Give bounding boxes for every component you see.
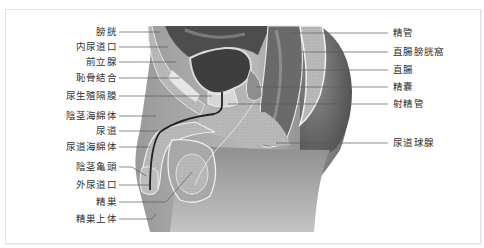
label-pubic-symphysis: 恥骨結合 [7, 72, 117, 84]
label-external-urethral-orifice: 外尿道口 [7, 179, 117, 191]
label-corpus-spongiosum: 尿道海綿体 [7, 141, 117, 153]
label-internal-urethral-orifice: 内尿道口 [7, 41, 117, 53]
label-rectum: 直腸 [393, 64, 414, 76]
label-rectovesical-pouch: 直腸膀胱窩 [393, 46, 445, 58]
label-bladder: 膀胱 [7, 26, 117, 38]
label-prostate: 前立腺 [7, 56, 117, 68]
label-urogenital-diaphragm: 尿生殖隔膜 [7, 90, 117, 102]
label-ejaculatory-duct: 射精管 [393, 98, 424, 110]
label-bulbourethral-gland: 尿道球腺 [393, 137, 434, 149]
label-epididymis: 精巣上体 [7, 213, 117, 225]
label-testis: 精巣 [7, 196, 117, 208]
label-seminal-vesicle: 精嚢 [393, 81, 414, 93]
label-vas-deferens: 精管 [393, 27, 414, 39]
label-glans-penis: 陰茎亀頭 [7, 161, 117, 173]
label-corpus-cavernosum: 陰茎海綿体 [7, 110, 117, 122]
label-urethra: 尿道 [7, 125, 117, 137]
